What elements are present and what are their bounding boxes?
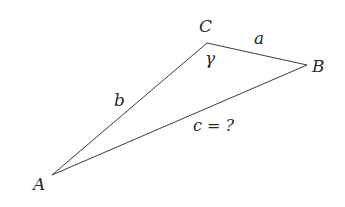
vertex-label-a: A xyxy=(33,176,45,193)
vertex-label-b: B xyxy=(312,58,325,75)
triangle-shape xyxy=(52,43,307,175)
side-label-b: b xyxy=(114,92,125,109)
angle-label-gamma: γ xyxy=(205,50,215,67)
triangle-svg xyxy=(0,0,345,207)
side-label-c: c = ? xyxy=(193,118,234,134)
triangle-diagram: C B A a b c = ? γ xyxy=(0,0,345,207)
side-label-a: a xyxy=(254,30,264,47)
vertex-label-c: C xyxy=(199,18,212,35)
